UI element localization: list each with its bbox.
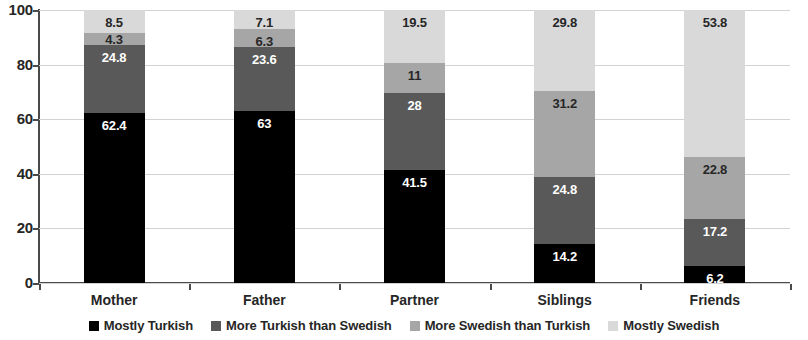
bar-siblings: 29.831.224.814.2 [534, 10, 595, 283]
y-tick-mark-60 [33, 119, 39, 121]
bar-value-label: 11 [384, 69, 445, 82]
y-axis-tick-labels: 020406080100 [0, 0, 33, 340]
legend-item[interactable]: Mostly Turkish [89, 318, 193, 333]
bar-segment: 29.8 [534, 10, 595, 91]
bar-value-label: 29.8 [534, 16, 595, 29]
y-tick-label-40: 40 [3, 165, 33, 182]
x-tick-mark [490, 284, 492, 290]
y-tick-mark-0 [33, 283, 39, 285]
bar-segment: 6.3 [234, 29, 295, 46]
category-label-father: Father [204, 292, 324, 308]
y-tick-mark-100 [33, 10, 39, 12]
bar-friends: 53.822.817.26.2 [684, 10, 745, 283]
y-tick-label-0: 0 [3, 274, 33, 291]
bar-father: 7.16.323.663 [234, 10, 295, 283]
legend-label: Mostly Swedish [623, 318, 719, 333]
bar-segment: 53.8 [684, 10, 745, 157]
x-tick-mark [39, 284, 41, 290]
legend-swatch-icon [89, 321, 99, 331]
y-tick-label-80: 80 [3, 56, 33, 73]
legend-swatch-icon [410, 321, 420, 331]
y-tick-mark-40 [33, 174, 39, 176]
x-tick-mark [339, 284, 341, 290]
bar-segment: 41.5 [384, 170, 445, 283]
category-label-siblings: Siblings [505, 292, 625, 308]
bar-segment: 23.6 [234, 47, 295, 111]
bar-value-label: 14.2 [534, 250, 595, 263]
y-tick-label-100: 100 [3, 1, 33, 18]
gridline-0 [39, 283, 790, 284]
x-tick-mark [790, 284, 792, 290]
bar-value-label: 6.2 [684, 272, 745, 285]
chart-legend: Mostly TurkishMore Turkish than SwedishM… [0, 318, 808, 333]
y-tick-label-60: 60 [3, 110, 33, 127]
bar-segment: 24.8 [534, 177, 595, 245]
bar-segment: 62.4 [84, 113, 145, 283]
category-label-friends: Friends [655, 292, 775, 308]
bar-value-label: 41.5 [384, 176, 445, 189]
bar-value-label: 53.8 [684, 16, 745, 29]
x-tick-mark [189, 284, 191, 290]
bar-segment: 7.1 [234, 10, 295, 29]
legend-label: More Turkish than Swedish [226, 318, 392, 333]
bar-segment: 14.2 [534, 244, 595, 283]
bar-value-label: 28 [384, 99, 445, 112]
y-tick-mark-20 [33, 228, 39, 230]
bar-segment: 17.2 [684, 219, 745, 266]
legend-swatch-icon [211, 321, 221, 331]
bar-segment: 28 [384, 93, 445, 169]
bar-segment: 8.5 [84, 10, 145, 33]
legend-label: Mostly Turkish [104, 318, 193, 333]
bar-value-label: 17.2 [684, 225, 745, 238]
bar-value-label: 24.8 [534, 183, 595, 196]
bar-partner: 19.5112841.5 [384, 10, 445, 283]
bar-value-label: 23.6 [234, 53, 295, 66]
bar-segment: 6.2 [684, 266, 745, 283]
plot-area: 8.54.324.862.47.16.323.66319.5112841.529… [39, 10, 790, 283]
bar-segment: 19.5 [384, 10, 445, 63]
bar-value-label: 62.4 [84, 119, 145, 132]
bar-segment: 63 [234, 111, 295, 283]
bar-segment: 22.8 [684, 157, 745, 219]
x-tick-mark [640, 284, 642, 290]
bar-value-label: 22.8 [684, 163, 745, 176]
legend-swatch-icon [608, 321, 618, 331]
legend-label: More Swedish than Turkish [425, 318, 591, 333]
legend-item[interactable]: Mostly Swedish [608, 318, 719, 333]
category-label-mother: Mother [54, 292, 174, 308]
y-tick-mark-80 [33, 65, 39, 67]
stacked-bar-chart: 020406080100 8.54.324.862.47.16.323.6631… [0, 0, 808, 340]
bar-segment: 31.2 [534, 91, 595, 176]
bar-value-label: 24.8 [84, 51, 145, 64]
bar-segment: 4.3 [84, 33, 145, 45]
bar-mother: 8.54.324.862.4 [84, 10, 145, 283]
legend-item[interactable]: More Swedish than Turkish [410, 318, 591, 333]
bar-value-label: 19.5 [384, 16, 445, 29]
legend-item[interactable]: More Turkish than Swedish [211, 318, 392, 333]
bar-value-label: 63 [234, 117, 295, 130]
bar-segment: 11 [384, 63, 445, 93]
bar-value-label: 31.2 [534, 97, 595, 110]
y-tick-label-20: 20 [3, 219, 33, 236]
category-label-partner: Partner [355, 292, 475, 308]
bar-value-label: 7.1 [234, 16, 295, 29]
bar-segment: 24.8 [84, 45, 145, 113]
bar-value-label: 8.5 [84, 16, 145, 29]
